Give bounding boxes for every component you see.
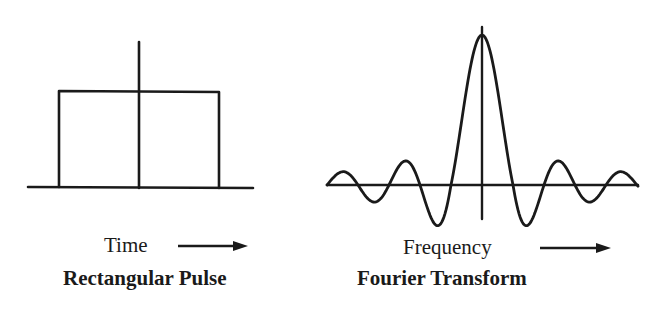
- fourier-transform-title: Fourier Transform: [357, 266, 527, 291]
- time-arrow: [178, 241, 248, 251]
- rectangular-pulse-plot: [28, 42, 253, 188]
- rectangular-pulse-title: Rectangular Pulse: [63, 266, 227, 291]
- fourier-transform-plot: [327, 27, 638, 226]
- frequency-arrow: [540, 243, 611, 253]
- frequency-axis-label: Frequency: [403, 235, 492, 260]
- time-axis-label: Time: [104, 233, 148, 258]
